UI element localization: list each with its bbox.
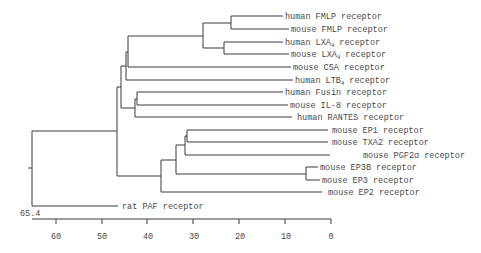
dendrogram-chart: human FMLP receptor mouse FMLP receptor … <box>0 0 481 253</box>
leaf-label: mouse LXA4 receptor <box>291 50 386 61</box>
leaf-label: mouse TXA2 receptor <box>332 138 429 148</box>
leaf-label: mouse C5A receptor <box>293 63 385 73</box>
leaf-label: human RANTES receptor <box>297 113 404 123</box>
leaf-label: mouse EP3B receptor <box>320 163 417 173</box>
leaf-label: mouse EP2 receptor <box>328 188 420 198</box>
leaf-label: mouse FMLP receptor <box>291 25 388 35</box>
x-tick-label: 10 <box>281 232 291 242</box>
leaf-label: mouse PGF2α receptor <box>363 151 465 161</box>
x-axis: 65.4 60 50 40 30 20 10 0 <box>20 209 334 242</box>
root-distance-label: 65.4 <box>20 209 40 219</box>
leaf-label: mouse EP1 receptor <box>332 126 424 136</box>
x-tick-label: 50 <box>97 232 107 242</box>
leaf-label: rat PAF receptor <box>122 202 204 212</box>
leaf-label: human LTB4 receptor <box>295 76 390 87</box>
leaf-label: mouse EP3 receptor <box>322 176 414 186</box>
leaf-labels: human FMLP receptor mouse FMLP receptor … <box>122 12 465 212</box>
x-tick-label: 40 <box>143 232 153 242</box>
leaf-label: human Fusin receptor <box>285 88 387 98</box>
x-tick-label: 0 <box>328 232 333 242</box>
x-tick-label: 60 <box>51 232 61 242</box>
x-tick-label: 30 <box>189 232 199 242</box>
leaf-label: human LXA4 receptor <box>285 38 380 49</box>
leaf-label: human FMLP receptor <box>285 12 382 22</box>
leaf-label: mouse IL-8 receptor <box>290 101 387 111</box>
x-tick-label: 20 <box>235 232 245 242</box>
